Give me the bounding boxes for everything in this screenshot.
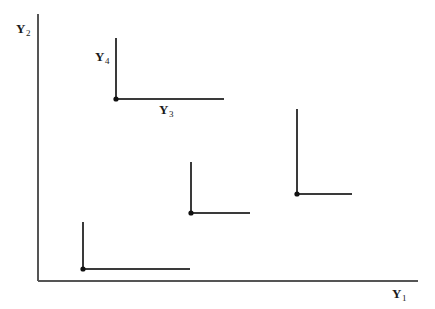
data-marker-3: [294, 109, 352, 197]
vertical-arm-label-subscript: 4: [105, 56, 110, 66]
horizontal-arm-label: Y3: [159, 103, 173, 116]
x-axis-label-subscript: 1: [402, 293, 407, 303]
y-axis-label-base: Y: [16, 21, 26, 36]
vertical-arm-label: Y4: [95, 50, 109, 63]
data-marker-2: [188, 162, 250, 216]
plot-area: [0, 0, 435, 309]
x-axis-label-base: Y: [392, 286, 402, 301]
data-marker-4-dot: [80, 266, 85, 271]
x-axis-label: Y1: [392, 287, 406, 300]
horizontal-arm-label-base: Y: [159, 102, 169, 117]
data-marker-3-dot: [294, 191, 299, 196]
data-marker-2-dot: [188, 210, 193, 215]
data-marker-1: [113, 38, 224, 102]
data-marker-4: [80, 222, 190, 272]
y-axis-label: Y2: [16, 22, 30, 35]
vertical-arm-label-base: Y: [95, 49, 105, 64]
horizontal-arm-label-subscript: 3: [169, 109, 174, 119]
figure-canvas: Y2 Y1 Y4 Y3: [0, 0, 435, 309]
y-axis-label-subscript: 2: [26, 28, 31, 38]
data-marker-1-dot: [113, 96, 118, 101]
